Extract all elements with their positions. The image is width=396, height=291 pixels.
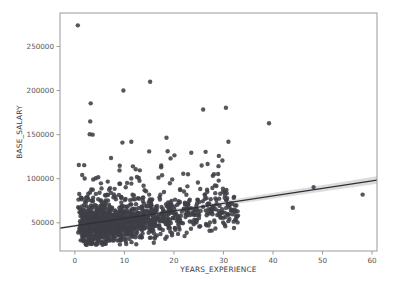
data-point: [129, 176, 133, 180]
data-point: [203, 197, 207, 201]
data-point: [108, 186, 112, 190]
data-point: [215, 213, 219, 217]
data-point: [112, 214, 116, 218]
data-point: [197, 224, 201, 228]
data-point: [140, 196, 144, 200]
data-point: [89, 101, 93, 105]
data-point: [105, 212, 109, 216]
data-point: [100, 230, 104, 234]
data-point: [128, 227, 132, 231]
data-point: [158, 197, 162, 201]
data-point: [114, 197, 118, 201]
data-point: [197, 200, 201, 204]
data-point: [204, 213, 208, 217]
data-point: [170, 233, 174, 237]
data-point: [118, 164, 122, 168]
data-point: [127, 237, 131, 241]
data-point: [101, 205, 105, 209]
data-point: [216, 172, 220, 176]
data-point: [131, 164, 135, 168]
data-point: [117, 168, 121, 172]
data-point: [86, 234, 90, 238]
data-point: [210, 212, 214, 216]
data-point: [161, 228, 165, 232]
data-point: [212, 220, 216, 224]
data-point: [205, 162, 209, 166]
data-point: [106, 193, 110, 197]
x-axis-ticks: 0102030405060: [73, 251, 377, 265]
data-point: [172, 153, 176, 157]
data-point: [205, 189, 209, 193]
data-point: [146, 221, 150, 225]
data-point: [94, 192, 98, 196]
data-point: [153, 207, 157, 211]
data-point: [178, 218, 182, 222]
data-point: [224, 106, 228, 110]
data-point: [129, 140, 133, 144]
data-point: [124, 232, 128, 236]
y-tick-label: 150000: [27, 130, 55, 139]
data-point: [124, 242, 128, 246]
data-point: [115, 227, 119, 231]
data-point: [206, 223, 210, 227]
data-point: [148, 80, 152, 84]
scatter-plot: 0102030405060 50000100000150000200000250…: [0, 0, 396, 291]
data-point: [114, 209, 118, 213]
data-point: [232, 226, 236, 230]
data-point: [223, 224, 227, 228]
data-point: [128, 231, 132, 235]
data-point: [95, 226, 99, 230]
data-point: [149, 225, 153, 229]
data-point: [196, 210, 200, 214]
data-point: [223, 210, 227, 214]
data-point: [224, 198, 228, 202]
data-point: [164, 202, 168, 206]
data-point: [219, 215, 223, 219]
data-point: [92, 237, 96, 241]
data-point: [86, 192, 90, 196]
data-point: [311, 185, 315, 189]
data-point: [176, 214, 180, 218]
data-point: [203, 150, 207, 154]
data-point: [83, 196, 87, 200]
data-point: [88, 119, 92, 123]
x-tick-label: 10: [120, 256, 130, 265]
data-point: [213, 191, 217, 195]
data-point: [128, 198, 132, 202]
data-point: [91, 177, 95, 181]
data-point: [216, 164, 220, 168]
data-point: [214, 184, 218, 188]
data-point: [360, 192, 364, 196]
data-point: [234, 209, 238, 213]
data-point: [164, 136, 168, 140]
data-point: [132, 218, 136, 222]
data-point: [217, 178, 221, 182]
data-point: [130, 192, 134, 196]
data-point: [79, 232, 83, 236]
data-point: [140, 235, 144, 239]
data-point: [89, 203, 93, 207]
y-tick-label: 50000: [31, 218, 54, 227]
data-point: [182, 189, 186, 193]
data-point: [89, 187, 93, 191]
data-point: [96, 233, 100, 237]
data-point: [196, 180, 200, 184]
data-point: [188, 219, 192, 223]
data-point: [96, 242, 100, 246]
y-tick-label: 200000: [27, 86, 55, 95]
data-point: [96, 215, 100, 219]
data-point: [99, 181, 103, 185]
data-point: [139, 219, 143, 223]
data-point: [119, 200, 123, 204]
data-point: [129, 181, 133, 185]
data-point: [91, 210, 95, 214]
data-point: [119, 196, 123, 200]
data-point: [226, 140, 230, 144]
data-point: [201, 107, 205, 111]
data-point: [152, 241, 156, 245]
data-point: [213, 196, 217, 200]
data-point: [229, 208, 233, 212]
data-point: [184, 231, 188, 235]
x-tick-label: 30: [219, 256, 229, 265]
x-tick-label: 50: [318, 256, 328, 265]
